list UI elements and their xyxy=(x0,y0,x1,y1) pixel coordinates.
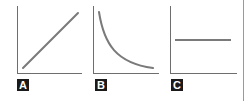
right-border-divider xyxy=(243,0,244,101)
graph-b-decay-curve xyxy=(99,12,153,68)
graph-c-label: C xyxy=(171,79,183,91)
graph-a xyxy=(17,6,82,74)
graphs-figure xyxy=(0,0,247,101)
graph-b xyxy=(93,6,159,74)
graph-b-label: B xyxy=(95,79,107,91)
graph-c xyxy=(170,6,237,74)
graph-a-label: A xyxy=(17,79,29,91)
graph-a-linear-line xyxy=(23,13,78,68)
